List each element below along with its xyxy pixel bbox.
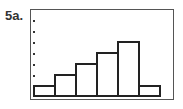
histogram-bar xyxy=(138,85,161,97)
y-tick-mark xyxy=(33,75,35,77)
histogram-bar xyxy=(117,41,140,97)
histogram-bar xyxy=(33,85,56,97)
y-tick-mark xyxy=(33,20,35,22)
y-tick-mark xyxy=(33,53,35,55)
chart-frame xyxy=(30,9,174,100)
histogram-bar xyxy=(54,74,77,97)
problem-label: 5a. xyxy=(5,8,23,23)
y-tick-mark xyxy=(33,31,35,33)
y-tick-mark xyxy=(33,64,35,66)
y-tick-mark xyxy=(33,42,35,44)
histogram-bar xyxy=(96,52,119,97)
histogram-bar xyxy=(75,63,98,97)
